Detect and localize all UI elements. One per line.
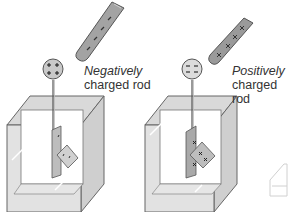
positive-rod-label-line2: charged rod — [232, 78, 291, 106]
negative-rod-label-line2: charged rod — [84, 78, 151, 92]
positive-rod — [209, 18, 253, 64]
left-electroscope — [7, 2, 124, 212]
partial-cropped-figure — [270, 164, 287, 196]
electroscope-diagram — [0, 0, 291, 212]
negative-rod-label-line1: Negatively — [84, 64, 151, 78]
negative-rod — [76, 2, 124, 61]
right-electroscope — [145, 18, 253, 212]
right-bulb — [182, 59, 202, 79]
positive-rod-label: Positively charged rod — [232, 64, 291, 106]
negative-rod-label: Negatively charged rod — [84, 64, 151, 92]
positive-rod-label-line1: Positively — [232, 64, 291, 78]
left-bulb — [43, 59, 63, 79]
